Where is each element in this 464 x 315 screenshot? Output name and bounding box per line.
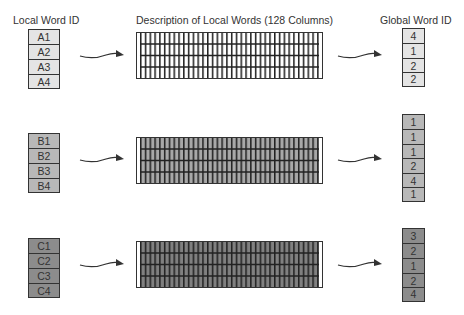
description-grid-a	[136, 32, 323, 79]
local-id-cell: C1	[29, 239, 59, 254]
arrow-icon	[336, 256, 384, 272]
local-id-cell: B1	[29, 134, 59, 149]
global-stack-b: 1 1 1 2 4 1	[402, 114, 425, 202]
global-id-cell: 3	[403, 229, 424, 244]
local-id-cell: B4	[29, 179, 59, 193]
global-id-cell: 1	[403, 130, 424, 145]
local-id-cell: C4	[29, 284, 59, 298]
local-id-cell: B3	[29, 164, 59, 179]
global-id-cell: 2	[403, 159, 424, 174]
global-id-cell: 2	[403, 244, 424, 259]
local-id-cell: A1	[29, 30, 59, 45]
local-id-cell: A2	[29, 45, 59, 60]
global-stack-a: 4 1 2 2	[402, 28, 425, 87]
arrow-icon	[336, 47, 384, 63]
global-id-cell: 2	[403, 59, 424, 73]
arrow-icon	[336, 151, 384, 167]
local-stack-b: B1 B2 B3 B4	[28, 133, 60, 193]
global-id-cell: 1	[403, 188, 424, 201]
arrow-icon	[78, 151, 126, 167]
arrow-icon	[78, 47, 126, 63]
global-id-cell: 4	[403, 29, 424, 44]
local-stack-a: A1 A2 A3 A4	[28, 29, 60, 89]
local-id-cell: C3	[29, 269, 59, 284]
global-id-cell: 1	[403, 259, 424, 274]
global-id-cell: 4	[403, 288, 424, 301]
local-stack-c: C1 C2 C3 C4	[28, 238, 60, 298]
local-id-cell: B2	[29, 149, 59, 164]
global-id-cell: 4	[403, 174, 424, 188]
global-id-cell: 2	[403, 274, 424, 288]
header-local-word-id: Local Word ID	[13, 14, 79, 26]
global-id-cell: 1	[403, 44, 424, 59]
global-id-cell: 1	[403, 115, 424, 130]
global-stack-c: 3 2 1 2 4	[402, 228, 425, 302]
header-description: Description of Local Words (128 Columns)	[136, 14, 333, 26]
local-id-cell: A4	[29, 75, 59, 89]
local-id-cell: A3	[29, 60, 59, 75]
local-id-cell: C2	[29, 254, 59, 269]
arrow-icon	[78, 256, 126, 272]
global-id-cell: 2	[403, 73, 424, 86]
header-global-word-id: Global Word ID	[380, 14, 452, 26]
global-id-cell: 1	[403, 145, 424, 159]
description-grid-c	[136, 241, 323, 288]
description-grid-b	[136, 137, 323, 184]
